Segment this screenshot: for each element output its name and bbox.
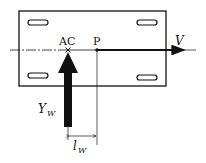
svg-text:W: W (78, 146, 87, 155)
svg-text:W: W (47, 109, 56, 118)
svg-text:l: l (73, 139, 77, 153)
label-ac: AC (58, 35, 75, 48)
label-arm-length: l W (73, 139, 87, 155)
svg-text:Y: Y (38, 102, 47, 116)
slot-bottom-right (137, 75, 157, 80)
slot-top-right (137, 20, 157, 25)
diagram-canvas: AC P V Y W l W (0, 0, 206, 163)
label-velocity: V (175, 34, 185, 48)
slot-top-left (28, 20, 48, 25)
label-p: P (93, 35, 101, 48)
label-lift-force: Y W (38, 102, 56, 118)
lift-force-arrow (58, 52, 78, 127)
slot-bottom-left (28, 73, 48, 78)
